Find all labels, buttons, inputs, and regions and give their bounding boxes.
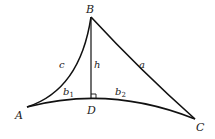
side-label-a: a	[139, 59, 145, 70]
side-label-b1: b1	[63, 86, 74, 99]
side-label-c: c	[59, 59, 65, 70]
vertex-label-d: D	[86, 104, 96, 117]
vertex-label-a: A	[14, 109, 23, 122]
vertex-label-b: B	[85, 3, 94, 16]
side-label-b2: b2	[115, 86, 126, 99]
side-b-curve	[27, 98, 195, 119]
side-label-h: h	[94, 59, 100, 70]
vertex-label-c: C	[196, 121, 205, 134]
triangle-diagram: B A D C c h a b1 b2	[0, 0, 215, 139]
